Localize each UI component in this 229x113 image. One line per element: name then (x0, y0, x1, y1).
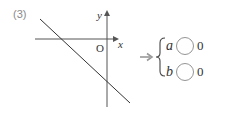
math-problem-figure: (3) x y O a 0 b 0 (0, 0, 229, 113)
answer-circle-b[interactable] (177, 64, 194, 81)
graph-line (40, 19, 130, 103)
answer-circle-a[interactable] (177, 38, 194, 55)
x-axis-label: x (117, 38, 123, 50)
comparison-b: 0 (197, 64, 204, 79)
variable-b: b (166, 64, 173, 79)
y-axis-label: y (96, 9, 102, 21)
figure-svg: (3) x y O a 0 b 0 (0, 0, 229, 113)
brace-icon (156, 38, 165, 76)
arrow-icon (140, 54, 152, 61)
origin-label: O (96, 42, 104, 54)
problem-number: (3) (13, 8, 26, 20)
variable-a: a (166, 38, 173, 53)
comparison-a: 0 (197, 38, 204, 53)
